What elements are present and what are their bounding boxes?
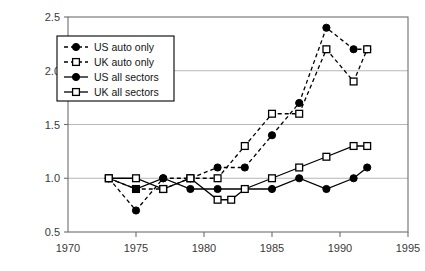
y-tick-label-4: 2.5 <box>45 11 60 23</box>
series-1-point-8 <box>323 46 330 53</box>
series-2-point-10 <box>364 164 371 171</box>
series-0-point-6 <box>268 132 275 139</box>
series-1-point-7 <box>296 110 303 117</box>
series-2-point-2 <box>160 175 167 182</box>
series-3-point-8 <box>296 164 303 171</box>
series-0-point-5 <box>241 164 248 171</box>
x-tick-label-0: 1970 <box>56 242 80 254</box>
legend-marker-0 <box>72 43 79 50</box>
series-3-point-1 <box>133 175 140 182</box>
series-2-point-6 <box>268 185 275 192</box>
series-0-point-1 <box>132 207 139 214</box>
series-3-point-7 <box>269 175 276 182</box>
series-1-point-4 <box>214 175 221 182</box>
series-3-point-10 <box>350 143 357 150</box>
y-tick-label-1: 1.0 <box>45 172 60 184</box>
x-tick-label-3: 1985 <box>260 242 284 254</box>
x-tick-label-1: 1975 <box>124 242 148 254</box>
series-1-point-10 <box>364 46 371 53</box>
series-0-point-7 <box>296 99 303 106</box>
series-3-point-3 <box>187 175 194 182</box>
series-2-point-4 <box>214 185 221 192</box>
x-tick-label-2: 1980 <box>192 242 216 254</box>
series-0-point-4 <box>214 164 221 171</box>
legend-label-3: UK all sectors <box>94 86 159 98</box>
legend-label-1: UK auto only <box>94 56 155 68</box>
chart-container: 0.51.01.52.02.5197019751980198519901995U… <box>0 0 425 271</box>
series-3-point-11 <box>364 143 371 150</box>
series-3-point-2 <box>160 186 167 193</box>
line-chart: 0.51.01.52.02.5197019751980198519901995U… <box>0 0 425 271</box>
legend-marker-3 <box>73 89 80 96</box>
y-tick-label-2: 1.5 <box>45 119 60 131</box>
series-2-point-9 <box>350 175 357 182</box>
x-tick-label-4: 1990 <box>328 242 352 254</box>
x-tick-label-5: 1995 <box>396 242 420 254</box>
legend-marker-1 <box>73 59 80 66</box>
legend-marker-2 <box>72 73 79 80</box>
y-tick-label-0: 0.5 <box>45 226 60 238</box>
series-3-point-0 <box>105 175 112 182</box>
series-3-point-6 <box>241 186 248 193</box>
legend-label-0: US auto only <box>94 41 155 53</box>
legend-label-2: US all sectors <box>94 71 159 83</box>
series-1-point-6 <box>269 110 276 117</box>
series-2-point-8 <box>323 185 330 192</box>
series-3-point-9 <box>323 153 330 160</box>
series-2-point-1 <box>132 185 139 192</box>
series-3-point-5 <box>228 196 235 203</box>
series-1-point-9 <box>350 78 357 85</box>
series-0-point-8 <box>323 24 330 31</box>
series-2-point-7 <box>296 175 303 182</box>
series-3-point-4 <box>214 196 221 203</box>
series-1-point-5 <box>241 143 248 150</box>
series-0-point-9 <box>350 46 357 53</box>
series-2-point-3 <box>187 185 194 192</box>
